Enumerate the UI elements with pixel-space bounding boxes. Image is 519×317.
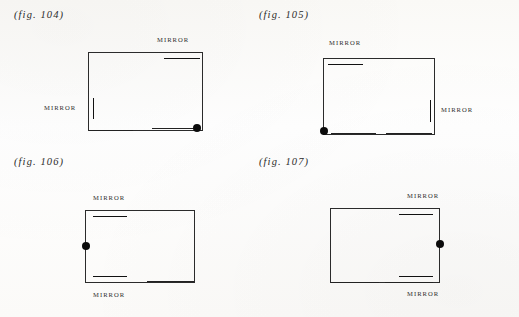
figure-107-caption: (fig. 107) bbox=[259, 156, 309, 167]
figure-107-wall-bottom-center bbox=[385, 282, 433, 283]
scanned-page: (fig. 104) MIRROR MIRROR (fig. 105) MIRR… bbox=[0, 0, 519, 317]
figure-104-room-outline bbox=[88, 52, 203, 131]
figure-105-mirror-label-top: MIRROR bbox=[329, 39, 361, 46]
figure-104-caption: (fig. 104) bbox=[14, 9, 64, 20]
figure-107-mirror-bottom-right bbox=[399, 276, 433, 277]
figure-107: (fig. 107) MIRROR MIRROR bbox=[252, 152, 519, 317]
figure-105-observer-dot bbox=[320, 127, 328, 135]
figure-105-mirror-label-right: MIRROR bbox=[441, 106, 473, 113]
figure-105-wall-bottom-right bbox=[386, 133, 432, 134]
figure-107-room-outline bbox=[330, 208, 440, 283]
figure-106-room-outline bbox=[85, 210, 195, 283]
figure-107-mirror-label-bottom: MIRROR bbox=[407, 290, 439, 297]
figure-107-observer-dot bbox=[436, 240, 444, 248]
figure-104-mirror-left bbox=[93, 98, 94, 119]
figure-104: (fig. 104) MIRROR MIRROR bbox=[0, 0, 259, 158]
figure-107-wall-bottom-left bbox=[331, 282, 379, 283]
figure-105-wall-bottom-left bbox=[331, 133, 376, 134]
figure-104-wall-bottom-right bbox=[152, 128, 196, 129]
figure-104-mirror-label-left: MIRROR bbox=[44, 104, 76, 111]
figure-106-mirror-bottom-left bbox=[93, 276, 127, 277]
figure-106-observer-dot bbox=[82, 242, 90, 250]
figure-105-caption: (fig. 105) bbox=[259, 9, 309, 20]
figure-106-mirror-top-left bbox=[93, 216, 127, 217]
figure-105-mirror-top-left bbox=[328, 64, 363, 65]
figure-106-mirror-label-bottom: MIRROR bbox=[93, 291, 125, 298]
figure-105-mirror-right bbox=[430, 100, 431, 122]
figure-107-mirror-top-right bbox=[399, 214, 433, 215]
figure-106: (fig. 106) MIRROR MIRROR bbox=[0, 152, 259, 317]
figure-107-mirror-label-top: MIRROR bbox=[407, 192, 439, 199]
figure-104-mirror-top-right bbox=[164, 58, 200, 59]
figure-105-room-outline bbox=[323, 58, 435, 135]
figure-104-mirror-label-top: MIRROR bbox=[157, 36, 189, 43]
figure-106-wall-bottom-right bbox=[147, 281, 194, 282]
figure-105: (fig. 105) MIRROR MIRROR bbox=[252, 0, 519, 158]
figure-104-observer-dot bbox=[193, 124, 201, 132]
figure-106-mirror-label-top: MIRROR bbox=[93, 194, 125, 201]
figure-106-caption: (fig. 106) bbox=[14, 156, 64, 167]
figure-104-wall-bottom-left bbox=[89, 130, 133, 131]
